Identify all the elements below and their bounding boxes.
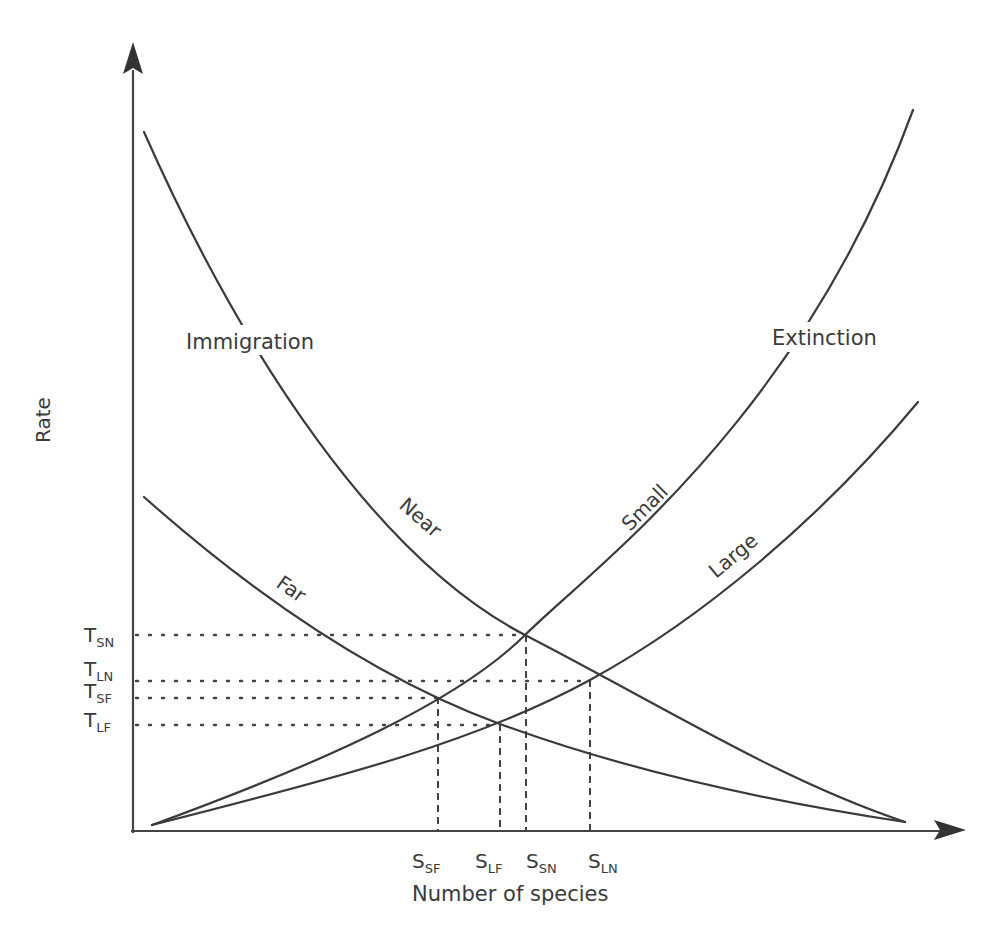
axes — [123, 42, 966, 840]
immigration-label: Immigration — [186, 330, 314, 354]
y-tick-t-sn: TSN — [83, 623, 114, 650]
x-tick-labels: SSF SLF SSN SLN — [412, 849, 618, 876]
equilibrium-guides — [136, 635, 590, 831]
island-biogeography-diagram: Immigration Extinction Near Far Small La… — [0, 0, 996, 944]
large-label: Large — [704, 528, 763, 583]
near-label: Near — [395, 493, 447, 543]
extinction-large-curve — [152, 402, 918, 825]
extinction-small-curve — [152, 110, 913, 825]
immigration-far-curve — [144, 497, 905, 822]
extinction-label: Extinction — [772, 326, 877, 350]
curves — [144, 110, 918, 825]
small-label: Small — [617, 479, 673, 535]
far-label: Far — [272, 570, 311, 607]
y-axis-label: Rate — [31, 397, 55, 443]
x-axis-label: Number of species — [412, 882, 608, 906]
x-tick-s-ln: SLN — [588, 849, 618, 876]
x-tick-s-sf: SSF — [412, 849, 440, 876]
y-axis-arrow-icon — [123, 42, 143, 74]
y-tick-t-lf: TLF — [83, 708, 111, 735]
x-tick-s-lf: SLF — [475, 849, 502, 876]
x-tick-s-sn: SSN — [526, 849, 557, 876]
immigration-near-curve — [144, 132, 905, 822]
y-tick-labels: TSN TLN TSF TLF — [83, 623, 114, 735]
